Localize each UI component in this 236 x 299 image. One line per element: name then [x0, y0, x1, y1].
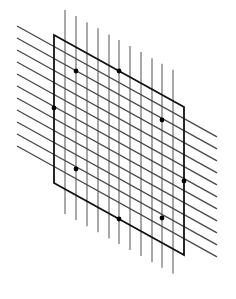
- marked-point: [182, 179, 187, 184]
- oblique-line: [17, 110, 217, 221]
- marked-point: [52, 106, 57, 111]
- oblique-line: [17, 134, 217, 245]
- oblique-line: [17, 98, 217, 209]
- marked-point: [74, 69, 79, 74]
- oblique-line: [17, 74, 217, 185]
- marked-point: [117, 69, 122, 74]
- marked-point: [117, 217, 122, 222]
- marked-point: [160, 216, 165, 221]
- marked-point: [74, 167, 79, 172]
- oblique-line: [17, 26, 217, 137]
- oblique-lines: [17, 26, 217, 257]
- oblique-line: [17, 62, 217, 173]
- oblique-line: [17, 122, 217, 233]
- grid-diagram: [0, 0, 236, 299]
- oblique-line: [17, 50, 217, 161]
- oblique-line: [17, 38, 217, 149]
- oblique-line: [17, 86, 217, 197]
- marked-point: [160, 118, 165, 123]
- oblique-line: [17, 146, 217, 257]
